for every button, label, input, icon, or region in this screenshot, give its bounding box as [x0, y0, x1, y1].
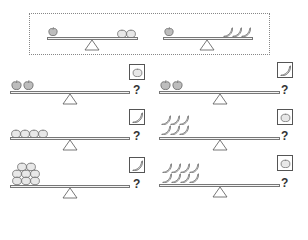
- orange-icon: [280, 113, 291, 122]
- fulcrum-icon: [63, 94, 77, 104]
- banana-icon: [189, 173, 199, 183]
- orange-icon: [280, 159, 291, 168]
- apple-icon: [23, 79, 34, 91]
- question-mark: ?: [133, 84, 140, 96]
- apple-icon: [48, 26, 58, 37]
- fulcrum-icon: [63, 140, 77, 150]
- banana-icon: [132, 112, 143, 123]
- answer-box[interactable]: [129, 157, 145, 173]
- answer-box[interactable]: [277, 109, 293, 125]
- apple-icon: [11, 79, 22, 91]
- banana-icon: [179, 115, 189, 125]
- question-mark: ?: [281, 177, 288, 189]
- orange-icon: [30, 176, 40, 185]
- fulcrum-icon: [63, 188, 77, 198]
- banana-icon: [241, 27, 251, 37]
- fulcrum-icon: [213, 94, 227, 104]
- question-mark: ?: [281, 84, 288, 96]
- question-mark: ?: [281, 130, 288, 142]
- question-mark: ?: [133, 130, 140, 142]
- banana-icon: [179, 125, 189, 135]
- answer-box[interactable]: [277, 155, 293, 171]
- answer-box[interactable]: [277, 62, 293, 78]
- fulcrum-icon: [213, 187, 227, 197]
- answer-box[interactable]: [129, 109, 145, 125]
- question-mark: ?: [133, 178, 140, 190]
- fulcrum-icon: [200, 40, 214, 50]
- answer-box[interactable]: [129, 64, 145, 80]
- fulcrum-icon: [85, 40, 99, 50]
- banana-icon: [132, 160, 143, 171]
- apple-icon: [172, 79, 183, 91]
- banana-icon: [189, 163, 199, 173]
- orange-icon: [132, 68, 143, 77]
- apple-icon: [160, 79, 171, 91]
- banana-icon: [280, 65, 291, 76]
- fulcrum-icon: [213, 140, 227, 150]
- apple-icon: [164, 26, 174, 37]
